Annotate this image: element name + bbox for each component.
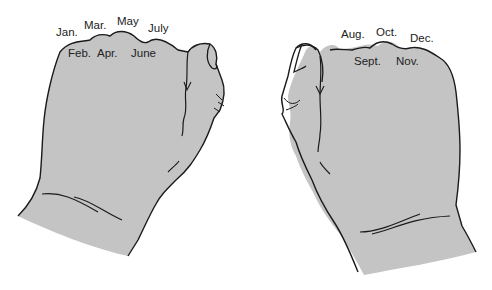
month-label-july: July <box>148 23 168 35</box>
month-label-feb: Feb. <box>68 48 91 60</box>
month-label-oct: Oct. <box>376 27 397 39</box>
month-label-jan: Jan. <box>56 27 78 39</box>
left-hand-fill <box>18 32 224 257</box>
month-label-dec: Dec. <box>410 33 434 45</box>
month-label-june: June <box>131 48 156 60</box>
month-label-may: May <box>117 16 139 28</box>
month-label-aug: Aug. <box>341 29 365 41</box>
month-label-mar: Mar. <box>84 20 106 32</box>
month-label-sept: Sept. <box>354 56 381 68</box>
month-label-apr: Apr. <box>97 48 117 60</box>
month-label-nov: Nov. <box>396 56 419 68</box>
left-hand <box>18 32 224 257</box>
knuckle-month-diagram: Jan. Mar. May July Feb. Apr. June Aug. O… <box>0 0 492 290</box>
right-hand-fill <box>288 42 476 276</box>
right-hand <box>282 42 476 276</box>
